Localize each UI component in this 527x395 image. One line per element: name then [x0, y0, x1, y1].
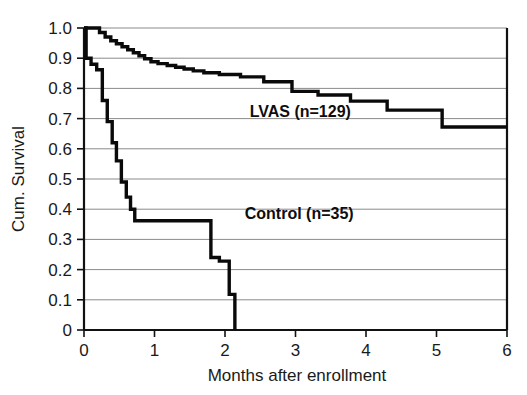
x-axis-title: Months after enrollment	[208, 366, 387, 385]
kaplan-meier-plot: 0123456 00.10.20.30.40.50.60.70.80.91.0 …	[0, 0, 527, 395]
survival-chart-figure: 0123456 00.10.20.30.40.50.60.70.80.91.0 …	[0, 0, 527, 395]
y-tick-label-group: 00.10.20.30.40.50.60.70.80.91.0	[48, 19, 72, 340]
x-tick-label: 1	[150, 341, 159, 360]
y-tick-label: 0.5	[48, 170, 72, 189]
y-axis-title: Cum. Survival	[9, 126, 28, 232]
x-tick-label: 5	[432, 341, 441, 360]
series-annotation-group: LVAS (n=129)Control (n=35)	[245, 103, 354, 222]
y-tick-label: 0.9	[48, 49, 72, 68]
y-tick-label: 0.4	[48, 200, 72, 219]
y-tick-label: 0.7	[48, 110, 72, 129]
gridline-group	[84, 58, 507, 300]
x-tick-label: 4	[361, 341, 370, 360]
x-tick-label-group: 0123456	[79, 341, 511, 360]
y-tick-label: 0.1	[48, 291, 72, 310]
y-tick-label: 0.6	[48, 140, 72, 159]
y-tick-label: 1.0	[48, 19, 72, 38]
x-tick-label: 3	[291, 341, 300, 360]
x-tick-label: 0	[79, 341, 88, 360]
y-tick-label: 0	[63, 321, 72, 340]
x-tick-label: 6	[502, 341, 511, 360]
y-tick-label: 0.3	[48, 230, 72, 249]
series-label-1: LVAS (n=129)	[250, 103, 351, 120]
y-tick-label: 0.2	[48, 261, 72, 280]
y-tick-label: 0.8	[48, 79, 72, 98]
series-label-2: Control (n=35)	[245, 205, 354, 222]
x-tick-label: 2	[220, 341, 229, 360]
